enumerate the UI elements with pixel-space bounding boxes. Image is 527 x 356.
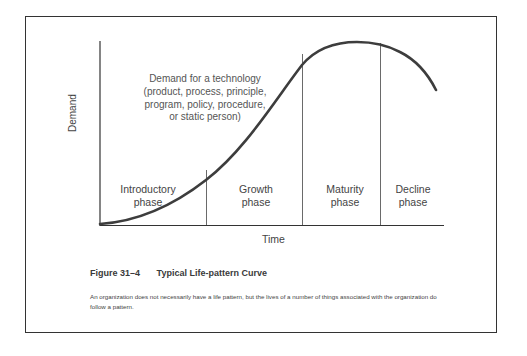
figure-title: Typical Life-pattern Curve xyxy=(157,268,267,278)
phase-suffix: phase xyxy=(108,196,188,209)
phase-name: Introductory xyxy=(108,183,188,196)
annotation-line: (product, process, principle, xyxy=(130,86,280,99)
phase-suffix: phase xyxy=(216,196,296,209)
y-axis-label: Demand xyxy=(67,94,78,132)
annotation-line: program, policy, procedure, xyxy=(130,99,280,112)
annotation-line: or static person) xyxy=(130,111,280,124)
phase-label-decline: Decline phase xyxy=(373,183,453,209)
figure-number: Figure 31–4 xyxy=(90,268,140,278)
phase-label-growth: Growth phase xyxy=(216,183,296,209)
phase-name: Decline xyxy=(373,183,453,196)
phase-suffix: phase xyxy=(373,196,453,209)
curve-annotation: Demand for a technology (product, proces… xyxy=(130,73,280,124)
phase-label-introductory: Introductory phase xyxy=(108,183,188,209)
x-axis-label: Time xyxy=(262,233,285,245)
figure-caption: An organization does not necessarily hav… xyxy=(90,292,440,312)
phase-name: Growth xyxy=(216,183,296,196)
annotation-line: Demand for a technology xyxy=(130,73,280,86)
figure-heading: Figure 31–4 Typical Life-pattern Curve xyxy=(90,268,267,278)
